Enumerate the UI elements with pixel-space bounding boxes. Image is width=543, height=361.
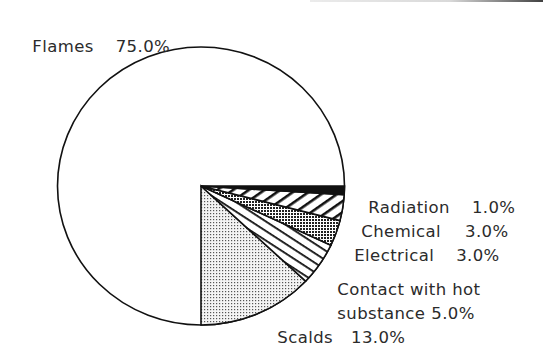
flames-percent: 75.0%: [116, 37, 170, 56]
label-scalds: Scalds13.0%: [266, 313, 405, 346]
scalds-percent: 13.0%: [351, 328, 405, 347]
label-flames: Flames75.0%: [21, 22, 170, 55]
electrical-percent: 3.0%: [456, 246, 500, 265]
flames-name: Flames: [32, 37, 93, 56]
contact-percent: 5.0%: [431, 304, 475, 323]
electrical-name: Electrical: [354, 246, 434, 265]
scalds-name: Scalds: [277, 328, 333, 347]
label-electrical: Electrical3.0%: [343, 231, 500, 264]
